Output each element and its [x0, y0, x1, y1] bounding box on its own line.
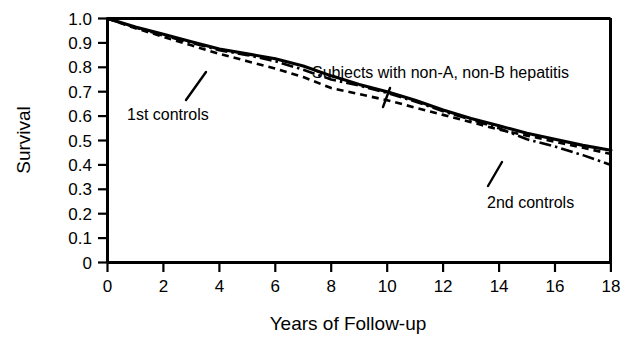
- y-axis-tick-labels: 1.0 0.9 0.8 0.7 0.6 0.5 0.4 0.3 0.2 0.1 …: [68, 10, 92, 273]
- x-tick-label-0: 0: [103, 277, 112, 296]
- x-tick-label-14: 14: [490, 277, 509, 296]
- y-tick-label-0.4: 0.4: [68, 156, 92, 175]
- y-tick-label-0.5: 0.5: [68, 132, 92, 151]
- y-tick-label-0.3: 0.3: [68, 180, 92, 199]
- curve-subjects-nanb-hepatitis: [108, 19, 611, 151]
- x-tick-label-18: 18: [601, 277, 620, 296]
- y-tick-label-0.6: 0.6: [68, 107, 92, 126]
- x-tick-label-10: 10: [378, 277, 397, 296]
- x-tick-label-6: 6: [271, 277, 280, 296]
- annotation-labels: 1st controls Subjects with non-A, non-B …: [127, 64, 574, 211]
- y-tick-label-0.7: 0.7: [68, 83, 92, 102]
- y-tick-label-0.1: 0.1: [68, 229, 92, 248]
- axis-lines: [108, 18, 613, 263]
- y-tick-label-0.2: 0.2: [68, 205, 92, 224]
- annotation-subjects: Subjects with non-A, non-B hepatitis: [312, 64, 569, 81]
- y-tick-label-0.9: 0.9: [68, 34, 92, 53]
- survival-chart-figure: 1.0 0.9 0.8 0.7 0.6 0.5 0.4 0.3 0.2 0.1 …: [0, 0, 634, 350]
- x-tick-label-2: 2: [159, 277, 168, 296]
- survival-chart-svg: 1.0 0.9 0.8 0.7 0.6 0.5 0.4 0.3 0.2 0.1 …: [0, 0, 634, 350]
- x-tick-label-4: 4: [215, 277, 224, 296]
- annotation-2nd-controls: 2nd controls: [487, 194, 574, 211]
- annotation-1st-controls: 1st controls: [127, 106, 209, 123]
- x-tick-label-8: 8: [326, 277, 335, 296]
- y-axis-title: Survival: [13, 106, 34, 174]
- data-curves: [108, 19, 611, 165]
- x-tick-label-16: 16: [546, 277, 565, 296]
- leader-line-2nd-controls: [488, 162, 502, 186]
- y-tick-label-0.8: 0.8: [68, 58, 92, 77]
- x-axis-tick-labels: 0 2 4 6 8 10 12 14 16 18: [103, 277, 621, 296]
- x-axis-title: Years of Follow-up: [270, 313, 427, 334]
- leader-line-1st-controls: [186, 72, 206, 100]
- x-tick-label-12: 12: [434, 277, 453, 296]
- annotation-leaders: [186, 72, 502, 186]
- y-tick-label-0: 0: [83, 254, 92, 273]
- y-tick-label-1.0: 1.0: [68, 10, 92, 29]
